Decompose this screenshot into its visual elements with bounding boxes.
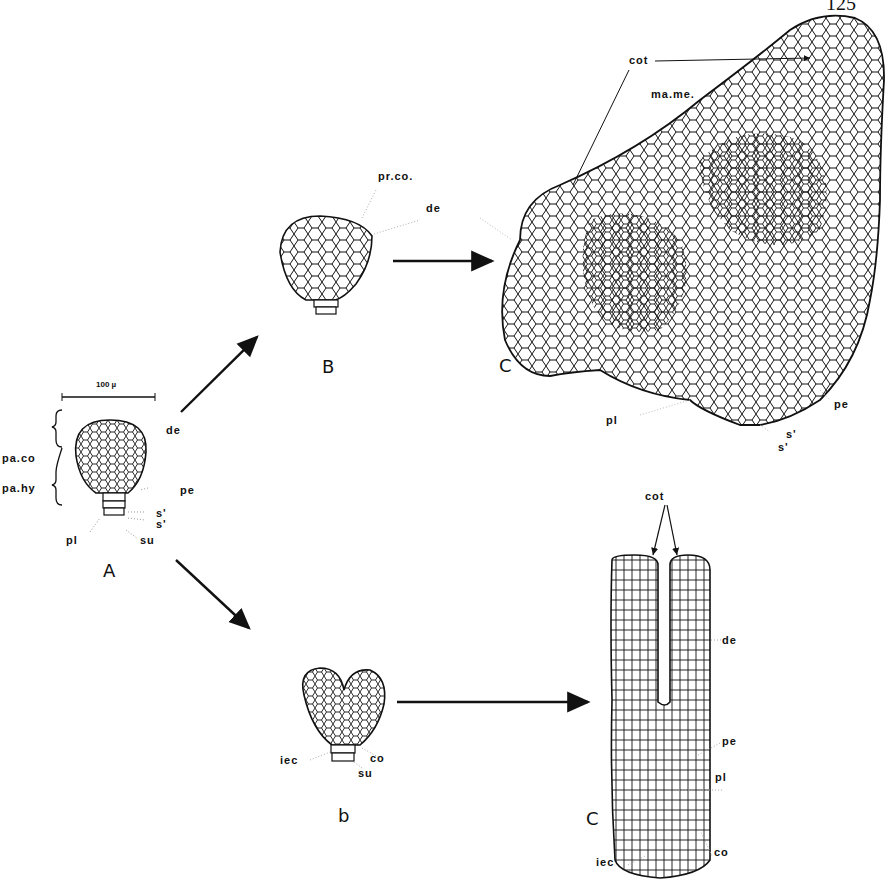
label-a-su: su [140, 534, 155, 546]
embryo-figure [0, 0, 892, 880]
label-c2-pe: pe [722, 735, 737, 747]
stage-letter-b: B [322, 356, 334, 377]
scale-bar-label: 100 µ [96, 380, 116, 389]
stage-letter-c-upper: C [499, 355, 512, 376]
label-pa-hy: pa.hy [2, 482, 36, 494]
label-c-cot: cot [629, 54, 649, 66]
label-c2-pl: pl [715, 771, 727, 783]
label-a-de: de [166, 424, 181, 436]
label-c2-iec: iec [596, 856, 614, 868]
embryo-stage-b [280, 190, 420, 314]
label-c-s2: s' [778, 441, 789, 453]
stage-letter-a: A [103, 560, 115, 581]
label-c-pe: pe [834, 398, 849, 410]
label-c-pl: pl [606, 414, 618, 426]
label-b-de: de [426, 202, 441, 214]
label-b2-iec: iec [280, 754, 298, 766]
label-b2-su: su [358, 767, 373, 779]
label-b-prco: pr.co. [378, 170, 413, 182]
embryo-stage-a [52, 410, 148, 539]
label-a-s2: s' [156, 518, 167, 530]
stage-letter-b-lower: b [338, 805, 349, 826]
label-c2-de: de [722, 634, 737, 646]
label-a-pe: pe [180, 484, 195, 496]
label-c2-cot: cot [645, 490, 665, 502]
embryo-stage-c-lower [611, 505, 722, 878]
label-pa-co: pa.co [2, 452, 36, 464]
label-c-mame: ma.me. [651, 88, 695, 100]
label-a-pl: pl [66, 534, 78, 546]
embryo-stage-c-upper [480, 16, 884, 432]
label-c-s1: s' [786, 428, 797, 440]
scale-bar [62, 393, 155, 401]
arrow-a-to-b [181, 337, 257, 412]
label-b2-co: co [370, 752, 385, 764]
label-c2-co: co [714, 846, 729, 858]
stage-letter-c-lower: C [586, 808, 599, 829]
arrow-a-to-b-lower [176, 560, 249, 628]
